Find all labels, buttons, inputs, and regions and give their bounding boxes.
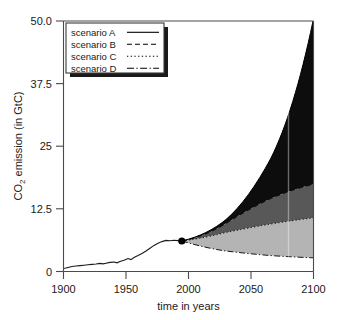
branch-point-marker <box>178 237 185 244</box>
y-tick-label-25: 25 <box>40 140 52 152</box>
y-axis-title-main: CO <box>12 184 24 201</box>
legend-label-scenario-a: scenario A <box>71 27 116 38</box>
y-axis-title-rest: emission (in GtC) <box>12 92 24 180</box>
x-tick-label-1900: 1900 <box>51 283 75 295</box>
x-tick-label-2100: 2100 <box>301 283 325 295</box>
x-tick-label-2050: 2050 <box>239 283 263 295</box>
legend-label-scenario-d: scenario D <box>71 63 117 74</box>
legend: scenario A scenario B scenario C scenari… <box>66 23 168 77</box>
x-tick-label-1950: 1950 <box>114 283 138 295</box>
y-tick-label-12-5: 12.5 <box>31 203 52 215</box>
y-tick-label-0: 0 <box>46 266 52 278</box>
legend-label-scenario-c: scenario C <box>71 51 117 62</box>
y-tick-label-37-5: 37.5 <box>31 78 52 90</box>
y-tick-label-50: 50.0 <box>31 15 52 27</box>
x-axis-title: time in years <box>157 300 220 312</box>
legend-label-scenario-b: scenario B <box>71 39 116 50</box>
x-tick-label-2000: 2000 <box>176 283 200 295</box>
co2-emission-scenario-chart: 50.0 37.5 25 12.5 0 1900 1950 2000 2050 … <box>0 0 346 320</box>
chart-figure: 50.0 37.5 25 12.5 0 1900 1950 2000 2050 … <box>0 0 346 320</box>
